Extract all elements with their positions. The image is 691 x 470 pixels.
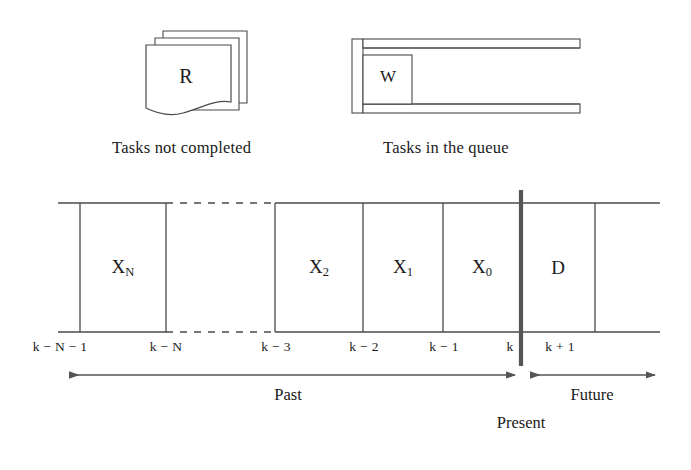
stacked-documents-icon: [146, 31, 247, 115]
cell-x0: X0: [472, 256, 492, 281]
queue-glyph-letter: W: [380, 67, 396, 87]
cell-xn: XN: [112, 256, 135, 281]
tick-label-0: k − N − 1: [33, 339, 88, 355]
queue-end-cap: [352, 39, 363, 113]
tick-label-1: k − N: [150, 339, 182, 355]
timeline-band: [58, 203, 660, 332]
tick-label-4: k − 1: [429, 339, 458, 355]
caption-tasks-in-queue: Tasks in the queue: [383, 138, 509, 158]
cell-x1: X1: [393, 256, 413, 281]
queue-rail-bottom: [363, 104, 580, 113]
tick-label-3: k − 2: [349, 339, 378, 355]
tick-label-6: k + 1: [545, 339, 574, 355]
cell-x2: X2: [309, 256, 329, 281]
tick-label-5: k: [506, 339, 513, 355]
present-label: Present: [497, 413, 546, 433]
queue-rail-top: [363, 39, 580, 48]
past-label: Past: [274, 385, 302, 405]
caption-tasks-not-completed: Tasks not completed: [112, 138, 251, 158]
cell-d: D: [551, 257, 565, 279]
tick-label-2: k − 3: [261, 339, 290, 355]
future-label: Future: [570, 385, 613, 405]
document-glyph-letter: R: [179, 65, 192, 88]
